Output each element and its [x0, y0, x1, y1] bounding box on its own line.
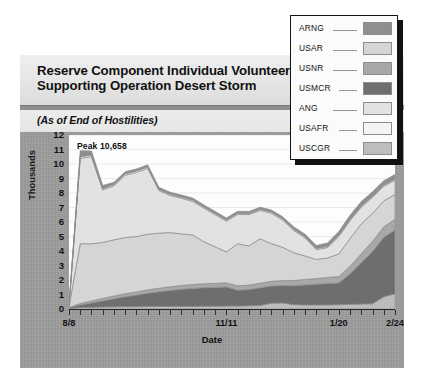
legend-swatch [363, 122, 392, 135]
y-axis-title: Thousands [26, 150, 37, 200]
x-tick [170, 310, 171, 315]
x-tick [260, 310, 261, 315]
legend-item-usafr[interactable]: USAFR [291, 119, 399, 139]
y-tick-label: 2 [38, 275, 64, 285]
legend-leader-line [333, 50, 357, 51]
legend-swatch [363, 82, 392, 95]
x-tick [80, 310, 81, 315]
y-tick-label: 11 [38, 145, 64, 155]
legend-item-usnr[interactable]: USNR [291, 59, 399, 79]
legend-leader-line [339, 150, 357, 151]
x-tick [283, 310, 284, 315]
y-tick-label: 0 [38, 304, 64, 314]
legend-label: USCGR [299, 143, 330, 153]
x-tick [136, 310, 137, 315]
x-axis-title: Date [20, 334, 404, 345]
x-tick-label: 11/11 [215, 318, 237, 328]
y-tick-label: 5 [38, 232, 64, 242]
x-tick [350, 310, 351, 315]
x-tick [103, 310, 104, 315]
legend-swatch [363, 62, 392, 75]
legend-swatch [363, 42, 392, 55]
x-tick [181, 310, 182, 315]
y-tick-label: 8 [38, 188, 64, 198]
legend-label: USMCR [299, 83, 331, 93]
x-tick [271, 310, 272, 315]
x-tick [159, 310, 160, 315]
legend-swatch [363, 142, 392, 155]
x-tick [316, 310, 317, 315]
y-axis-ticks: 0123456789101112 [38, 132, 64, 312]
y-tick-label: 6 [38, 217, 64, 227]
chart-legend: ARNGUSARUSNRUSMCRANGUSAFRUSCGR [290, 15, 398, 160]
y-tick-label: 4 [38, 246, 64, 256]
legend-item-arng[interactable]: ARNG [291, 19, 399, 39]
x-tick [69, 310, 70, 315]
x-tick [249, 310, 250, 315]
x-tick-label: 2/24 [386, 318, 404, 328]
y-tick-label: 10 [38, 159, 64, 169]
x-tick [384, 310, 385, 315]
x-tick [148, 310, 149, 315]
x-tick [294, 310, 295, 315]
legend-label: ARNG [299, 23, 324, 33]
y-tick-label: 12 [38, 130, 64, 140]
x-tick [395, 310, 396, 315]
x-tick [305, 310, 306, 315]
legend-swatch [363, 102, 392, 115]
legend-leader-line [339, 130, 357, 131]
y-tick-label: 3 [38, 261, 64, 271]
x-tick [114, 310, 115, 315]
x-tick [238, 310, 239, 315]
x-tick [204, 310, 205, 315]
x-tick [91, 310, 92, 315]
legend-label: USNR [299, 63, 324, 73]
legend-label: USAR [299, 43, 323, 53]
x-tick [193, 310, 194, 315]
x-tick [361, 310, 362, 315]
x-tick [339, 310, 340, 315]
x-tick [125, 310, 126, 315]
legend-leader-line [333, 110, 357, 111]
x-axis-tickmarks [69, 310, 395, 316]
legend-item-uscgr[interactable]: USCGR [291, 139, 399, 159]
x-tick [226, 310, 227, 315]
x-tick [328, 310, 329, 315]
y-tick-label: 9 [38, 174, 64, 184]
legend-item-ang[interactable]: ANG [291, 99, 399, 119]
y-tick-label: 7 [38, 203, 64, 213]
legend-swatch [363, 22, 392, 35]
subtitle: (As of End of Hostilities) [37, 114, 157, 126]
x-tick-label: 8/8 [63, 318, 76, 328]
peak-annotation: Peak 10,658 [77, 141, 127, 151]
legend-leader-line [333, 30, 357, 31]
x-tick [215, 310, 216, 315]
x-axis-labels: 8/811/111/202/24 [20, 318, 404, 332]
legend-leader-line [339, 90, 357, 91]
y-tick-label: 1 [38, 290, 64, 300]
legend-label: ANG [299, 103, 318, 113]
legend-leader-line [333, 70, 357, 71]
legend-label: USAFR [299, 123, 328, 133]
x-tick [373, 310, 374, 315]
legend-item-usar[interactable]: USAR [291, 39, 399, 59]
x-tick-label: 1/20 [330, 318, 348, 328]
legend-item-usmcr[interactable]: USMCR [291, 79, 399, 99]
chart-area: Thousands 0123456789101112 Peak 10,658 8… [20, 132, 404, 368]
